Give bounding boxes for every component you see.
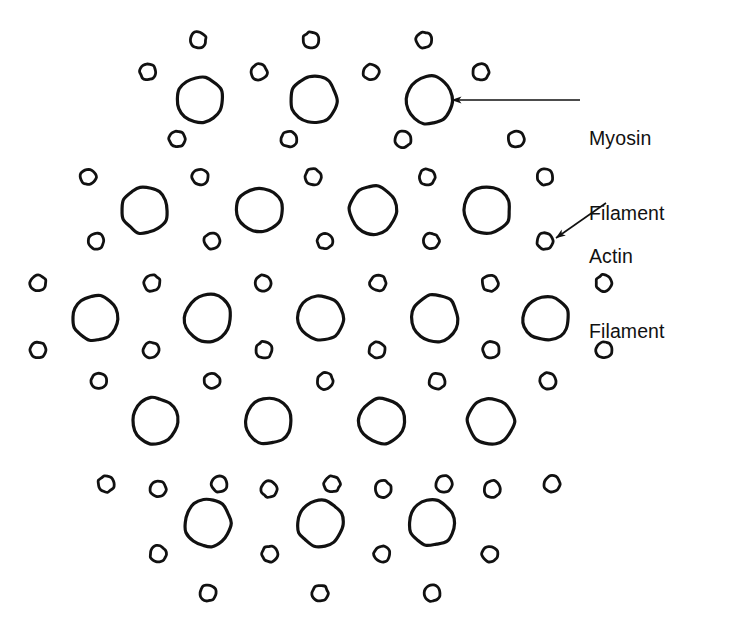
actin-filament (262, 546, 278, 562)
actin-filament (423, 233, 439, 249)
actin-filament (312, 586, 329, 601)
actin-filament (150, 481, 166, 496)
actin-filament (98, 476, 114, 493)
myosin-filament (349, 186, 397, 235)
myosin-filament (73, 295, 118, 340)
myosin-filament (291, 76, 337, 122)
myosin-filament (177, 77, 222, 123)
actin-filament (30, 275, 46, 291)
actin-filament (305, 169, 321, 185)
actin-filament (303, 32, 319, 48)
actin-filament (482, 275, 498, 291)
myosin-filament (184, 294, 230, 342)
actin-filament (424, 585, 440, 602)
actin-filament (544, 475, 560, 492)
myosin-filament (246, 398, 291, 443)
myosin-filament (297, 296, 343, 340)
myosin-filament (298, 500, 344, 547)
myosin-filament (409, 500, 454, 546)
actin-filament (508, 131, 524, 147)
filament-lattice-diagram: Myosin Filament Actin Filament (0, 0, 744, 631)
actin-filament (150, 545, 166, 562)
actin-label-line1: Actin (589, 244, 665, 269)
actin-filament (200, 585, 216, 601)
actin-filament (369, 342, 385, 358)
actin-filament (192, 169, 208, 185)
actin-filament (91, 373, 107, 388)
actin-filament (317, 372, 333, 389)
myosin-filament-group (73, 76, 568, 547)
actin-filament (482, 547, 498, 562)
actin-filament (256, 341, 272, 358)
actin-filament (251, 64, 267, 80)
actin-filament (483, 342, 499, 358)
actin-filament (419, 169, 435, 185)
actin-filament (484, 480, 500, 497)
actin-filament (88, 233, 103, 249)
actin-filament (317, 234, 333, 249)
actin-filament (140, 64, 156, 80)
actin-filament (374, 546, 390, 562)
actin-filament (375, 480, 391, 497)
actin-filament (429, 373, 445, 389)
myosin-filament (467, 399, 515, 444)
actin-filament (363, 64, 379, 80)
actin-filament (540, 373, 556, 389)
annotation-arrows (452, 100, 606, 238)
actin-filament (255, 275, 271, 291)
actin-filament (80, 169, 96, 184)
actin-filament (190, 32, 206, 48)
actin-filament (537, 233, 553, 250)
actin-filament (281, 131, 297, 147)
actin-label-line2: Filament (589, 319, 665, 344)
actin-filament (204, 373, 220, 388)
actin-filament (324, 476, 341, 492)
actin-filament (261, 481, 277, 498)
actin-filament (169, 131, 186, 146)
myosin-filament (122, 187, 167, 233)
myosin-label-line1: Myosin (589, 126, 665, 151)
actin-filament (211, 476, 227, 492)
actin-filament (473, 64, 489, 80)
myosin-filament (133, 397, 178, 444)
myosin-filament (523, 297, 569, 340)
myosin-filament (358, 398, 404, 444)
myosin-filament (406, 76, 452, 124)
actin-filament (395, 131, 411, 148)
actin-filament (370, 275, 387, 291)
actin-filament (537, 169, 552, 185)
actin-filament (204, 233, 220, 249)
actin-filament (144, 275, 160, 291)
myosin-filament (185, 499, 231, 547)
actin-filament (30, 342, 46, 357)
actin-filament (416, 32, 432, 48)
myosin-filament (412, 295, 458, 342)
actin-filament (143, 342, 159, 358)
myosin-filament (236, 188, 282, 231)
myosin-filament (464, 187, 509, 233)
actin-filament (436, 476, 452, 493)
actin-filament-label: Actin Filament (589, 194, 665, 394)
